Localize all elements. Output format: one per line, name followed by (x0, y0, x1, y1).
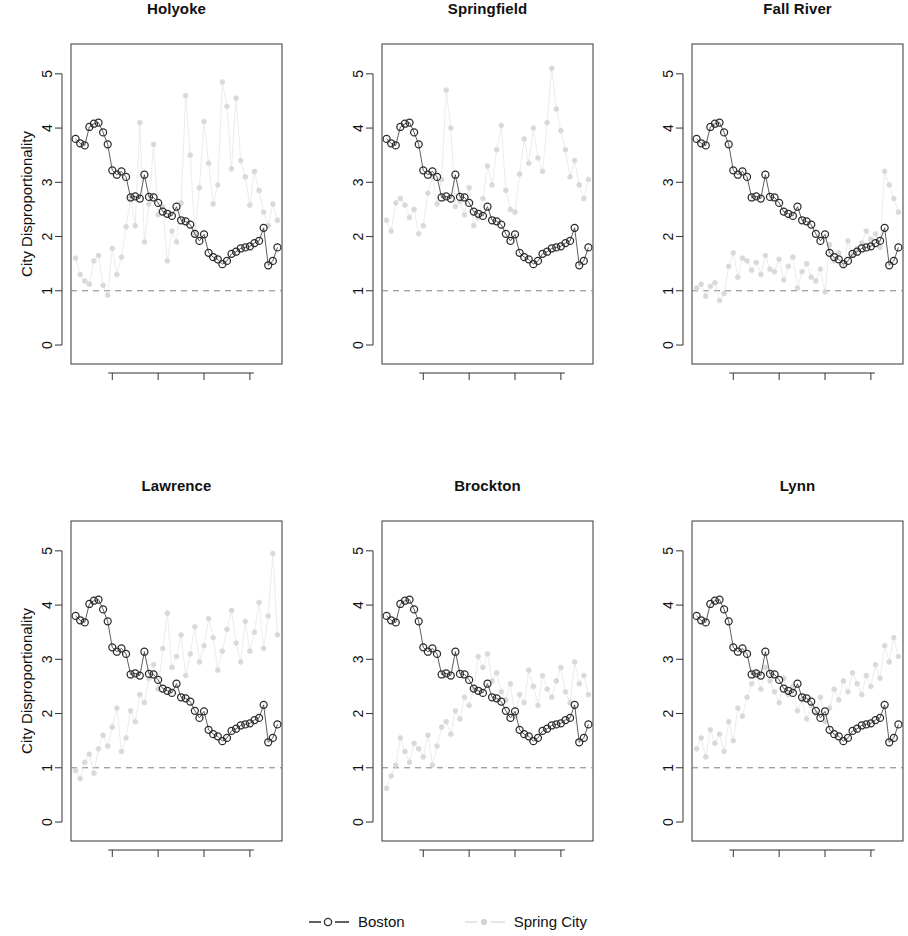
series-spring-city (384, 651, 591, 790)
x-axis: 19802000 (718, 373, 875, 380)
plot-area: 01234519802000 (11, 477, 297, 857)
plot-area: 01234519802000 (11, 0, 297, 380)
y-axis: 012345 (39, 547, 62, 826)
y-tick-label: 3 (660, 655, 676, 663)
y-tick-label: 2 (350, 709, 366, 717)
y-tick-label: 4 (350, 601, 366, 609)
y-tick-label: 5 (660, 547, 676, 555)
y-tick-label: 5 (39, 70, 55, 78)
y-tick-label: 0 (39, 341, 55, 349)
plot-area: 01234519802000 (322, 477, 608, 857)
series-boston (693, 596, 902, 746)
y-tick-label: 0 (39, 818, 55, 826)
y-tick-label: 4 (660, 601, 676, 609)
y-axis: 012345 (39, 70, 62, 349)
y-tick-label: 1 (660, 764, 676, 772)
series-spring-city (694, 635, 901, 759)
y-tick-label: 3 (39, 655, 55, 663)
y-tick-label: 2 (39, 232, 55, 240)
y-tick-label: 3 (39, 178, 55, 186)
x-axis: 19802000 (718, 850, 875, 857)
y-tick-label: 4 (39, 124, 55, 132)
plot-box-frame (382, 44, 593, 364)
panel-springfield: Springfield01234519802000 (322, 0, 608, 410)
y-tick-label: 5 (39, 547, 55, 555)
series-boston (72, 119, 281, 269)
plot-area: 01234519802000 (322, 0, 608, 380)
series-spring-city (694, 169, 901, 303)
y-axis: 012345 (660, 547, 683, 826)
y-tick-label: 1 (350, 764, 366, 772)
y-tick-label: 3 (660, 178, 676, 186)
y-tick-label: 5 (350, 70, 366, 78)
y-tick-label: 1 (660, 287, 676, 295)
y-tick-label: 0 (660, 818, 676, 826)
plot-area: 01234519802000 (632, 0, 908, 380)
panel-fall-river: Fall River01234519802000 (632, 0, 908, 410)
y-tick-label: 5 (350, 547, 366, 555)
y-tick-label: 2 (660, 709, 676, 717)
plot-area: 01234519802000 (632, 477, 908, 857)
panel-brockton: Brockton01234519802000 (322, 477, 608, 887)
series-boston (383, 119, 592, 269)
panel-lynn: Lynn01234519802000 (632, 477, 908, 887)
legend-marker-boston-icon (309, 915, 349, 929)
chart-legend: Boston Spring City (0, 913, 896, 930)
y-tick-label: 3 (350, 178, 366, 186)
plot-box-frame (692, 521, 903, 841)
y-tick-label: 4 (350, 124, 366, 132)
series-boston (383, 596, 592, 746)
x-axis: 19802000 (408, 373, 565, 380)
y-axis-title: City Disproportionality (18, 131, 35, 277)
panel-lawrence: Lawrence01234519802000 (11, 477, 297, 887)
series-boston (72, 596, 281, 746)
y-tick-label: 2 (350, 232, 366, 240)
series-spring-city (73, 80, 280, 298)
y-axis-title: City Disproportionality (18, 608, 35, 754)
y-tick-label: 2 (660, 232, 676, 240)
plot-box-frame (692, 44, 903, 364)
legend-label-boston: Boston (358, 913, 405, 930)
y-tick-label: 0 (350, 818, 366, 826)
legend-entry-boston[interactable]: Boston (309, 913, 405, 930)
x-axis: 19802000 (97, 373, 254, 380)
y-tick-label: 1 (39, 287, 55, 295)
y-axis: 012345 (350, 70, 373, 349)
series-boston (693, 119, 902, 269)
y-tick-label: 4 (39, 601, 55, 609)
y-tick-label: 1 (350, 287, 366, 295)
plot-box-frame (71, 521, 282, 841)
y-tick-label: 4 (660, 124, 676, 132)
y-tick-label: 5 (660, 70, 676, 78)
x-axis: 19802000 (97, 850, 254, 857)
y-axis: 012345 (660, 70, 683, 349)
y-tick-label: 0 (660, 341, 676, 349)
y-tick-label: 2 (39, 709, 55, 717)
series-spring-city (73, 551, 280, 781)
legend-marker-spring-city-icon (465, 915, 505, 929)
x-axis: 19802000 (408, 850, 565, 857)
plot-box-frame (382, 521, 593, 841)
y-tick-label: 0 (350, 341, 366, 349)
panel-holyoke: Holyoke01234519802000 (11, 0, 297, 410)
y-tick-label: 3 (350, 655, 366, 663)
legend-label-spring-city: Spring City (514, 913, 587, 930)
y-tick-label: 1 (39, 764, 55, 772)
legend-entry-spring-city[interactable]: Spring City (465, 913, 587, 930)
y-axis: 012345 (350, 547, 373, 826)
